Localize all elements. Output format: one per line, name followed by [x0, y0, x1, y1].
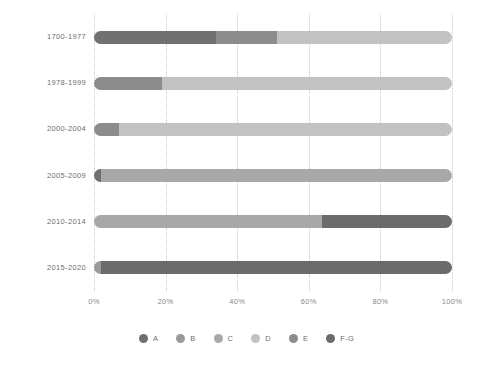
- legend-swatch-icon: [251, 334, 260, 343]
- y-axis-label: 2010-2014: [0, 217, 86, 226]
- stacked-bar[interactable]: [94, 169, 452, 182]
- legend-swatch-icon: [176, 334, 185, 343]
- bar-segment-e[interactable]: [216, 31, 277, 44]
- stacked-bar[interactable]: [94, 261, 452, 274]
- bar-segment-f-g[interactable]: [94, 31, 216, 44]
- stacked-bar[interactable]: [94, 215, 452, 228]
- x-axis-tick-label: 20%: [158, 297, 174, 306]
- legend-swatch-icon: [139, 334, 148, 343]
- bar-segment-a[interactable]: [94, 169, 101, 182]
- legend-label: F-G: [340, 334, 354, 343]
- bar-segment-c[interactable]: [94, 215, 322, 228]
- bar-segment-d[interactable]: [162, 77, 452, 90]
- legend-label: D: [265, 334, 271, 343]
- y-axis-label: 2005-2009: [0, 171, 86, 180]
- legend-label: B: [190, 334, 195, 343]
- legend-label: C: [228, 334, 234, 343]
- stacked-bar[interactable]: [94, 31, 452, 44]
- x-axis-tick-label: 60%: [301, 297, 317, 306]
- plot-area: [94, 14, 452, 291]
- legend-label: A: [153, 334, 158, 343]
- legend-swatch-icon: [289, 334, 298, 343]
- legend-item-d[interactable]: D: [251, 334, 271, 343]
- gridline-100: [452, 14, 453, 291]
- legend-label: E: [303, 334, 308, 343]
- legend-item-a[interactable]: A: [139, 334, 158, 343]
- bar-segment-d[interactable]: [277, 31, 452, 44]
- x-axis-tick-label: 40%: [229, 297, 245, 306]
- y-axis-category-labels: 1700-19771978-19992000-20042005-20092010…: [0, 14, 86, 291]
- bar-segment-b[interactable]: [94, 261, 101, 274]
- bar-segment-d[interactable]: [119, 123, 452, 136]
- bar-row: [94, 123, 452, 136]
- bar-row: [94, 215, 452, 228]
- bar-row: [94, 31, 452, 44]
- bar-row: [94, 169, 452, 182]
- bar-segment-f-g[interactable]: [322, 215, 452, 228]
- x-axis-tick-label: 0%: [88, 297, 99, 306]
- energy-rating-stacked-bar-chart: 1700-19771978-19992000-20042005-20092010…: [0, 0, 493, 373]
- stacked-bar[interactable]: [94, 77, 452, 90]
- legend-item-c[interactable]: C: [214, 334, 234, 343]
- bar-row: [94, 77, 452, 90]
- bar-segment-f-g[interactable]: [101, 261, 452, 274]
- chart-legend: ABCDEF-G: [0, 334, 493, 343]
- y-axis-label: 1978-1999: [0, 78, 86, 87]
- legend-swatch-icon: [214, 334, 223, 343]
- x-axis-tick-label: 100%: [442, 297, 462, 306]
- y-axis-label: 2015-2020: [0, 263, 86, 272]
- legend-item-e[interactable]: E: [289, 334, 308, 343]
- legend-swatch-icon: [326, 334, 335, 343]
- y-axis-label: 2000-2004: [0, 124, 86, 133]
- stacked-bar[interactable]: [94, 123, 452, 136]
- bar-segment-e[interactable]: [94, 77, 162, 90]
- x-axis-tick-labels: 0%20%40%60%80%100%: [94, 297, 452, 313]
- legend-item-b[interactable]: B: [176, 334, 195, 343]
- bar-segment-c[interactable]: [101, 169, 452, 182]
- y-axis-label: 1700-1977: [0, 32, 86, 41]
- legend-item-f-g[interactable]: F-G: [326, 334, 354, 343]
- bar-row: [94, 261, 452, 274]
- bar-rows: [94, 14, 452, 291]
- x-axis-tick-label: 80%: [372, 297, 388, 306]
- bar-segment-e[interactable]: [94, 123, 119, 136]
